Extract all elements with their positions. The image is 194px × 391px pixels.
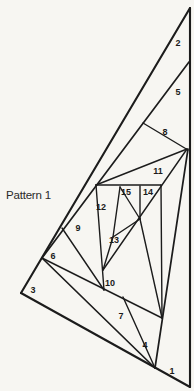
iris-folding-pattern-canvas: 123456789101112131415 bbox=[0, 0, 194, 391]
region-number-label-4: 4 bbox=[142, 340, 147, 350]
region-number-label-15: 15 bbox=[121, 187, 131, 197]
pattern-line-chord-9 bbox=[96, 185, 104, 290]
pattern-line-chord-4 bbox=[123, 297, 155, 368]
pattern-line-chord-10-inner bbox=[161, 185, 162, 318]
pattern-line-chord-1 bbox=[155, 149, 188, 368]
region-number-label-12: 12 bbox=[96, 202, 106, 212]
pattern-line-chord-15 bbox=[113, 187, 120, 237]
pattern-line-left-edge bbox=[21, 8, 190, 293]
region-number-label-1: 1 bbox=[169, 366, 174, 376]
region-number-label-13: 13 bbox=[109, 235, 119, 245]
region-number-label-14: 14 bbox=[143, 187, 153, 197]
region-number-label-11: 11 bbox=[153, 166, 163, 176]
pattern-line-chord-2 bbox=[42, 62, 189, 258]
region-number-label-5: 5 bbox=[175, 87, 180, 97]
region-number-label-9: 9 bbox=[75, 223, 80, 233]
region-number-label-6: 6 bbox=[50, 251, 55, 261]
pattern-line-chord-6 bbox=[62, 228, 104, 290]
pattern-page: Pattern 1 123456789101112131415 bbox=[0, 0, 194, 391]
pattern-line-chord-14-long bbox=[103, 149, 187, 270]
region-number-label-8: 8 bbox=[162, 127, 167, 137]
region-number-label-3: 3 bbox=[30, 285, 35, 295]
region-number-label-7: 7 bbox=[118, 311, 123, 321]
region-number-label-2: 2 bbox=[175, 38, 180, 48]
region-number-label-10: 10 bbox=[105, 278, 115, 288]
pattern-line-chord-10 bbox=[140, 219, 162, 318]
